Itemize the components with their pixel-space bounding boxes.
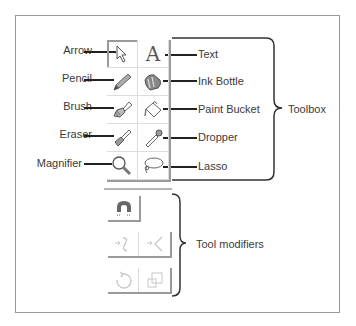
- toolbox: A: [107, 40, 171, 182]
- separator: [104, 188, 172, 190]
- label-tool-modifiers: Tool modifiers: [196, 238, 264, 250]
- paint-bucket-icon: [142, 100, 164, 120]
- svg-text:A: A: [145, 44, 161, 64]
- modifier-scale[interactable]: [139, 268, 170, 292]
- label-eraser: Eraser: [22, 128, 92, 140]
- modifier-straighten[interactable]: [139, 232, 170, 256]
- tool-magnifier[interactable]: [107, 152, 138, 180]
- brush-icon: [111, 100, 133, 120]
- dropper-icon: [142, 128, 164, 148]
- text-icon: A: [143, 44, 163, 64]
- magnifier-icon: [111, 155, 133, 177]
- modifier-rotate[interactable]: [108, 268, 139, 292]
- toolbox-brace: [170, 36, 290, 184]
- rotate-icon: [113, 270, 133, 290]
- tool-ink-bottle[interactable]: [138, 68, 169, 96]
- modifiers-brace: [170, 192, 194, 300]
- tool-text[interactable]: A: [138, 40, 169, 68]
- tool-arrow[interactable]: [107, 40, 138, 68]
- tool-lasso[interactable]: [138, 152, 169, 180]
- ink-bottle-icon: [142, 72, 164, 92]
- pencil-icon: [111, 72, 133, 92]
- tool-paint-bucket[interactable]: [138, 96, 169, 124]
- snap-magnet-icon: [114, 199, 134, 217]
- label-magnifier: Magnifier: [10, 157, 82, 169]
- tool-brush[interactable]: [107, 96, 138, 124]
- modifier-row-1: [108, 196, 141, 222]
- modifier-row-3: [108, 268, 172, 294]
- lasso-icon: [141, 156, 165, 176]
- arrow-icon: [114, 45, 130, 63]
- modifier-smooth[interactable]: [108, 232, 139, 256]
- label-toolbox: Toolbox: [288, 103, 326, 115]
- eraser-icon: [111, 128, 133, 148]
- label-pencil: Pencil: [22, 72, 92, 84]
- tool-pencil[interactable]: [107, 68, 138, 96]
- smooth-icon: [113, 235, 133, 253]
- straighten-icon: [145, 235, 165, 253]
- tool-eraser[interactable]: [107, 124, 138, 152]
- label-brush: Brush: [22, 100, 92, 112]
- modifier-snap[interactable]: [108, 196, 139, 220]
- label-arrow: Arrow: [22, 44, 92, 56]
- modifier-row-2: [108, 232, 172, 258]
- tool-dropper[interactable]: [138, 124, 169, 152]
- scale-icon: [145, 270, 165, 290]
